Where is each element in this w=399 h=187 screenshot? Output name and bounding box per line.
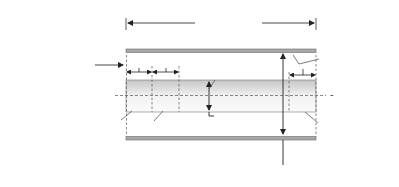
dx-dimensions — [127, 68, 315, 75]
inner-tube — [126, 80, 316, 112]
top-plate — [126, 49, 316, 53]
heat-transfer-diagram — [0, 0, 399, 187]
length-dimension — [126, 18, 316, 30]
center-line-label: - — [330, 90, 334, 101]
bottom-plate — [126, 137, 316, 141]
